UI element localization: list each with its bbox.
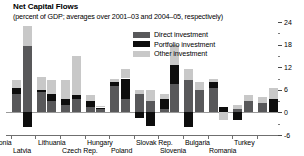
bar-lithuania-0 [61,22,70,135]
bar-segment-portfolio [110,82,119,86]
legend-swatch-other-icon [133,51,150,57]
y-tick-minor [278,33,280,34]
legend-swatch-direct-icon [133,32,150,38]
bar-segment-portfolio [184,112,193,127]
y-tick [278,90,282,91]
bar-latvia-0 [37,22,46,135]
bar-segment-direct [61,105,70,113]
bar-segment-direct [23,46,32,112]
bar-turkey-1 [269,22,278,135]
bar-segment-portfolio [72,95,81,99]
bar-romania-1 [244,22,253,135]
bar-poland-0 [135,22,144,135]
y-tick-minor [278,124,280,125]
bar-segment-other [121,69,130,78]
bar-latvia-1 [47,22,56,135]
bar-segment-portfolio [146,112,155,125]
x-tick [35,136,36,139]
bar-segment-other [269,88,278,99]
category-label-hungary: Hungary [87,139,113,146]
bar-segment-portfolio [170,65,179,84]
y-tick [278,22,282,23]
x-axis-line [6,135,278,136]
bar-segment-portfolio [233,112,242,120]
chart-title: Net Capital Flows [13,2,78,11]
bar-segment-other [86,95,95,101]
bar-bulgaria-1 [219,22,228,135]
bar-segment-portfolio [96,108,105,110]
y-tick [278,135,282,136]
bar-segment-other [146,90,155,101]
bar-segment-other [96,106,105,108]
category-label-latvia: Latvia [13,147,31,154]
bar-segment-other [233,105,242,109]
bar-segment-other [184,69,193,80]
x-tick [257,136,258,139]
bar-segment-other [23,26,32,47]
bar-segment-other [258,97,267,103]
bar-czechrep-0 [86,22,95,135]
bar-segment-other [219,112,228,120]
x-tick [134,136,135,139]
bar-segment-other [47,80,56,93]
category-label-romania: Romania [209,147,236,154]
category-label-lithuania: Lithuania [38,139,66,146]
y-tick-minor [278,79,280,80]
y-tick-label: 18 [284,41,292,48]
y-tick [278,67,282,68]
plot-area [6,22,278,135]
legend-label-other: Other investment [154,49,207,58]
category-label-slovakrep: Slovak Rep. [136,139,173,146]
y-tick-label: 0 [284,109,288,116]
bar-czechrep-1 [96,22,105,135]
bar-segment-other [160,94,169,100]
bar-segment-direct [195,90,204,113]
bar-segment-other [12,80,21,88]
category-label-estonia: Estonia [0,139,12,146]
bar-segment-other [72,56,81,96]
bar-segment-direct [209,88,218,112]
bar-segment-other [195,82,204,90]
bar-segment-direct [170,84,179,112]
bar-estonia-0 [12,22,21,135]
chart-subtitle: (percent of GDP; averages over 2001–03 a… [13,12,223,21]
legend-swatch-portfolio-icon [133,41,150,47]
bar-segment-other [61,80,70,99]
y-tick-label: 6 [284,86,288,93]
legend-label-portfolio: Portfolio investment [154,40,215,49]
legend-label-direct: Direct investment [154,30,208,39]
bar-segment-direct [244,101,253,112]
y-tick [278,45,282,46]
x-tick [183,136,184,139]
category-label-czechrep: Czech Rep. [62,147,98,154]
bar-estonia-1 [23,22,32,135]
y-tick-label: 24 [284,19,292,26]
bar-segment-portfolio [160,99,169,108]
y-axis: -606121824 [278,0,304,156]
bar-segment-other [110,79,119,83]
bar-segment-other [209,79,218,83]
bar-segment-direct [146,101,155,112]
bar-segment-portfolio [61,99,70,105]
bar-segment-direct [86,107,95,113]
bar-segment-portfolio [12,88,21,94]
bar-segment-direct [121,99,130,112]
category-label-slovenia: Slovenia [160,147,186,154]
bar-segment-other [37,77,46,90]
x-tick [85,136,86,139]
y-tick-minor [278,56,280,57]
category-label-bulgaria: Bulgaria [185,139,210,146]
bar-segment-direct [258,103,267,112]
category-label-turkey: Turkey [234,139,255,146]
bar-segment-direct [37,92,46,113]
chart-figure: Net Capital Flows (percent of GDP; avera… [0,0,304,156]
bar-segment-other [244,95,253,101]
bar-segment-direct [135,94,144,113]
bar-segment-direct [12,94,21,113]
bar-segment-other [135,90,144,94]
bar-segment-portfolio [23,112,32,127]
bar-turkey-0 [258,22,267,135]
bar-lithuania-1 [72,22,81,135]
bar-segment-direct [160,109,169,113]
y-tick [278,112,282,113]
